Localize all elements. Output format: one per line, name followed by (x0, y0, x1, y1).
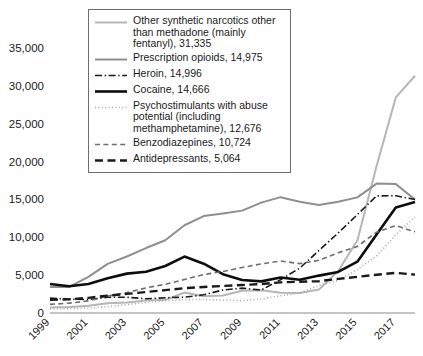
y-tick-label: 25,000 (9, 118, 44, 130)
x-tick-label: 2001 (64, 316, 90, 342)
legend-item[interactable]: Prescription opioids, 14,975 (94, 52, 284, 66)
legend-label: Prescription opioids, 14,975 (133, 52, 263, 64)
legend-swatch-icon (94, 69, 128, 82)
legend-item[interactable]: Cocaine, 14,666 (94, 84, 284, 98)
x-tick-label: 2013 (295, 316, 321, 342)
legend-item[interactable]: Other synthetic narcotics other than met… (94, 15, 284, 50)
chart-legend: Other synthetic narcotics other than met… (88, 9, 291, 173)
x-tick-label: 2005 (141, 316, 167, 342)
legend-item[interactable]: Antidepressants, 5,064 (94, 153, 284, 167)
x-tick-label: 1999 (26, 316, 52, 342)
x-axis-tick-labels: 1999200120032005200720092011201320152017 (26, 316, 398, 342)
x-tick-label: 2009 (218, 316, 244, 342)
legend-label: Heroin, 14,996 (133, 68, 202, 80)
legend-label: Benzodiazepines, 10,724 (133, 137, 251, 149)
legend-label: Cocaine, 14,666 (133, 84, 209, 96)
x-tick-label: 2003 (102, 316, 128, 342)
y-tick-label: 20,000 (9, 156, 44, 168)
series-line (50, 184, 415, 287)
legend-label: Other synthetic narcotics other than met… (133, 15, 284, 50)
y-tick-label: 5,000 (15, 269, 44, 281)
legend-swatch-icon (94, 53, 128, 66)
y-tick-label: 15,000 (9, 193, 44, 205)
legend-swatch-icon (94, 154, 128, 167)
legend-swatch-icon (94, 85, 128, 98)
series-line (50, 202, 415, 286)
legend-item[interactable]: Benzodiazepines, 10,724 (94, 137, 284, 151)
x-tick-label: 2011 (257, 316, 282, 341)
y-tick-label: 35,000 (9, 42, 44, 54)
y-tick-label: 30,000 (9, 80, 44, 92)
y-tick-label: 10,000 (9, 231, 44, 243)
legend-label: Antidepressants, 5,064 (133, 153, 240, 165)
legend-swatch-icon (94, 101, 128, 114)
line-chart: 05,00010,00015,00020,00025,00030,00035,0… (0, 0, 423, 356)
x-tick-label: 2007 (179, 316, 205, 342)
legend-label: Psychostimulants with abuse potential (i… (133, 100, 284, 135)
legend-swatch-icon (94, 16, 128, 29)
y-axis-tick-labels: 05,00010,00015,00020,00025,00030,00035,0… (9, 42, 44, 319)
x-tick-label: 2017 (371, 316, 397, 342)
legend-item[interactable]: Psychostimulants with abuse potential (i… (94, 100, 284, 135)
legend-swatch-icon (94, 138, 128, 151)
x-tick-label: 2015 (333, 316, 359, 342)
legend-item[interactable]: Heroin, 14,996 (94, 68, 284, 82)
